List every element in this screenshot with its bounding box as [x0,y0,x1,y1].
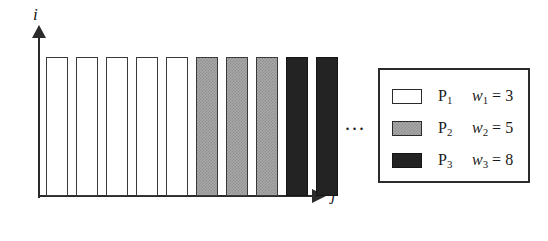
bar-10-p3 [316,57,338,196]
legend-weight-label-2: w2 = 5 [472,119,513,137]
bar-group [46,57,338,196]
bar-1-p1 [46,57,68,196]
process-schedule-diagram: i j ... P1w1 = 3P2w2 = 5P3w3 = 8 [0,0,548,241]
bar-2-p1 [76,57,98,196]
legend-weight-label-1: w1 = 3 [472,87,513,105]
legend-weight-label-3: w3 = 8 [472,151,513,169]
bar-4-p1 [136,57,158,196]
legend-row-1: P1w1 = 3 [380,80,528,112]
i-axis-label: i [33,6,38,23]
black-rect-swatch [392,153,422,168]
gray-rect-swatch [392,121,422,136]
legend-row-2: P2w2 = 5 [380,112,528,144]
legend-process-label-3: P3 [438,151,464,169]
white-rect-swatch [392,89,422,104]
legend-row-3: P3w3 = 8 [380,144,528,176]
legend-process-label-2: P2 [438,119,464,137]
i-axis-line [38,34,40,198]
ellipsis-annotation: ... [345,113,366,133]
bar-7-p2 [226,57,248,196]
bar-3-p1 [106,57,128,196]
bar-8-p2 [256,57,278,196]
bar-5-p1 [166,57,188,196]
bar-9-p3 [286,57,308,196]
bar-6-p2 [196,57,218,196]
legend-process-label-1: P1 [438,87,464,105]
legend-box: P1w1 = 3P2w2 = 5P3w3 = 8 [378,68,530,183]
